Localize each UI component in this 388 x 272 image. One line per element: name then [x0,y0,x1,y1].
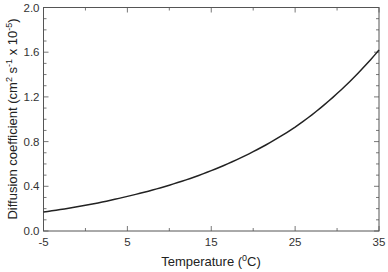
y-tick-label: 2.0 [24,2,40,14]
y-tick-label: 0.4 [24,180,41,192]
x-axis-tick-labels: -55152535 [38,236,385,248]
data-line [44,50,380,212]
x-tick-label: 25 [289,236,302,248]
y-axis-tick-labels: 0.00.40.81.21.62.0 [24,2,41,238]
x-tick-label: 5 [124,236,130,248]
y-axis-title: Diffusion coefficient (cm2 s-1 x 10-5) [4,18,20,219]
y-tick-label: 1.6 [24,46,40,58]
diffusion-chart: 0.00.40.81.21.62.0 -55152535 Temperature… [0,0,388,272]
x-axis-title: Temperature (0C) [161,253,261,269]
x-tick-label: 15 [205,236,218,248]
x-tick-label: 35 [373,236,386,248]
x-axis-ticks [44,8,380,232]
y-tick-label: 0.8 [24,136,40,148]
plot-frame [44,8,380,232]
y-tick-label: 0.0 [24,225,40,237]
x-tick-label: -5 [38,236,48,248]
y-tick-label: 1.2 [24,91,40,103]
y-axis-ticks [44,8,380,232]
